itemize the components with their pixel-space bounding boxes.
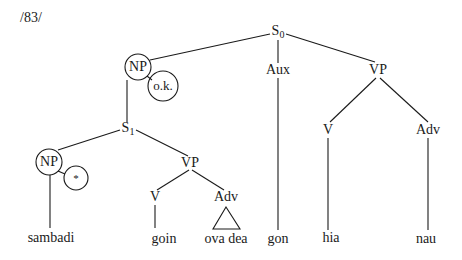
leaf-ova-dea: ova dea (204, 231, 247, 247)
edge-s0-np (150, 34, 270, 60)
node-star-annotation: * (73, 170, 79, 186)
node-adv-mid: Adv (214, 189, 238, 205)
node-np-top: NP (129, 59, 147, 75)
leaf-gon: gon (268, 231, 289, 247)
node-adv-right: Adv (416, 122, 440, 138)
leaf-sambadi: sambadi (28, 230, 75, 246)
syntax-tree-edges (0, 0, 462, 260)
edge-s1-np (58, 130, 120, 150)
leaf-hia: hia (322, 230, 339, 246)
leaf-nau: nau (416, 231, 436, 247)
node-aux: Aux (266, 62, 290, 78)
node-s0: S0 (272, 23, 285, 43)
edge-vp-adv (380, 78, 428, 122)
node-vp-right: VP (369, 62, 387, 78)
edge-s0-vp (286, 34, 375, 62)
node-ok-annotation: o.k. (153, 78, 173, 94)
edge-vpmid-adv (192, 170, 224, 190)
node-np-lower: NP (40, 154, 58, 170)
node-s1: S1 (122, 120, 135, 140)
edge-s1-vp (136, 130, 188, 156)
edge-np-star (58, 171, 65, 174)
node-v-right: V (323, 122, 333, 138)
edge-vpmid-v (157, 170, 189, 190)
edge-vp-v (330, 78, 376, 122)
triangle-adv-ovadea (213, 207, 240, 229)
leaf-goin: goin (152, 231, 177, 247)
node-vp-mid: VP (181, 155, 199, 171)
node-v-mid: V (150, 189, 160, 205)
